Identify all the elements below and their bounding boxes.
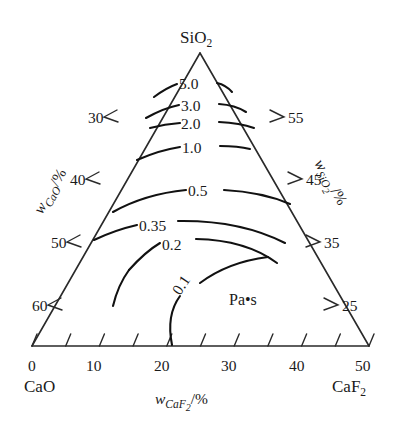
unit-annotation: Pa•s bbox=[229, 291, 257, 308]
left-axis-title: wCaO/% bbox=[30, 165, 72, 218]
contour-1.0-left-segment bbox=[137, 147, 180, 160]
left-tick-label-50: 50 bbox=[51, 234, 67, 251]
right-tick-55 bbox=[270, 110, 284, 122]
contour-0.5-left-segment bbox=[113, 190, 186, 212]
bottom-axis-title-sub: CaF bbox=[165, 398, 186, 410]
right-tick-label-25: 25 bbox=[342, 297, 358, 314]
contour-label-0.5: 0.5 bbox=[188, 182, 208, 199]
left-tick-label-40: 40 bbox=[70, 171, 86, 188]
bottom-tick-label-10: 10 bbox=[86, 357, 102, 374]
left-tick-60 bbox=[48, 298, 62, 310]
contour-5.0-left-segment bbox=[154, 84, 177, 97]
bottom-tick-label-0: 0 bbox=[28, 357, 36, 374]
contour-label-3.0: 3.0 bbox=[181, 97, 201, 114]
contour-0.2-left-segment bbox=[129, 243, 160, 270]
right-tick-labels: 55 45 35 25 bbox=[288, 109, 358, 314]
bottom-axis-title: wCaF2/% bbox=[155, 390, 208, 413]
bottom-axis-title-tail: /% bbox=[191, 390, 208, 407]
contour-0.1-lower-segment bbox=[170, 296, 180, 345]
contour-label-2.0: 2.0 bbox=[181, 115, 201, 132]
vertex-caf2-main: CaF bbox=[332, 377, 360, 396]
contour-0.2-tail bbox=[113, 270, 129, 306]
left-tick-40 bbox=[86, 172, 100, 184]
bottom-axis-ticks bbox=[32, 334, 374, 346]
contour-label-1.0: 1.0 bbox=[182, 139, 202, 156]
right-tick-45 bbox=[288, 172, 302, 184]
contour-0.2-right-segment bbox=[196, 239, 277, 263]
bottom-tick-label-20: 20 bbox=[154, 357, 170, 374]
ternary-viscosity-diagram: 5.0 3.0 2.0 1.0 0.5 0.35 0.2 0.1 Pa•s Si… bbox=[0, 0, 410, 428]
triangle-axes bbox=[32, 53, 369, 346]
contour-label-5.0: 5.0 bbox=[179, 75, 199, 92]
right-tick-25 bbox=[324, 298, 338, 310]
bottom-axis-title-var: w bbox=[155, 390, 166, 407]
vertex-label-sio2: SiO2 bbox=[180, 28, 212, 49]
contour-value-labels: 5.0 3.0 2.0 1.0 0.5 0.35 0.2 0.1 bbox=[139, 75, 208, 298]
contour-2.0-right-segment bbox=[219, 122, 254, 128]
left-tick-label-30: 30 bbox=[88, 109, 104, 126]
left-tick-50 bbox=[67, 235, 81, 247]
contour-3.0-left-segment bbox=[146, 105, 179, 118]
contour-0.1-upper-segment bbox=[200, 257, 268, 283]
left-axis-ticks bbox=[48, 110, 118, 310]
bottom-tick-label-30: 30 bbox=[221, 357, 237, 374]
vertex-label-caf2: CaF2 bbox=[332, 377, 366, 398]
left-tick-30 bbox=[104, 110, 118, 122]
right-axis-ticks bbox=[270, 110, 338, 310]
right-tick-label-55: 55 bbox=[288, 109, 304, 126]
vertex-sio2-sub: 2 bbox=[206, 37, 212, 49]
contour-1.0-right-segment bbox=[220, 146, 250, 149]
bottom-tick-labels: 0 10 20 30 40 50 bbox=[28, 357, 371, 374]
vertex-caf2-sub: 2 bbox=[360, 386, 366, 398]
diagram-canvas: 5.0 3.0 2.0 1.0 0.5 0.35 0.2 0.1 Pa•s Si… bbox=[0, 0, 410, 428]
left-tick-label-60: 60 bbox=[32, 297, 48, 314]
left-axis-title-tail: /% bbox=[46, 165, 69, 188]
contour-2.0-left-segment bbox=[150, 123, 180, 128]
vertex-sio2-main: SiO bbox=[180, 28, 206, 47]
contour-label-0.35: 0.35 bbox=[139, 217, 166, 234]
vertex-cao-main: CaO bbox=[24, 377, 55, 396]
vertex-label-cao: CaO bbox=[24, 377, 55, 396]
right-tick-label-35: 35 bbox=[324, 234, 340, 251]
contour-label-0.1: 0.1 bbox=[168, 272, 193, 298]
bottom-tick-label-50: 50 bbox=[355, 357, 371, 374]
bottom-tick-label-40: 40 bbox=[289, 357, 305, 374]
contour-0.35-right-segment bbox=[178, 221, 285, 243]
contour-label-0.2: 0.2 bbox=[162, 236, 181, 253]
